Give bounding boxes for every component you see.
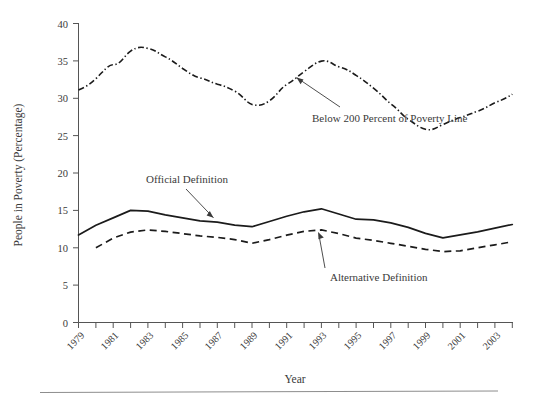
x-axis-ticks xyxy=(79,323,513,329)
annotation-official-definition: Official Definition xyxy=(146,173,228,218)
x-axis-tick-labels: 1979 1981 1983 1985 1987 1989 1991 1993 … xyxy=(64,330,502,352)
y-tick-label: 40 xyxy=(58,19,69,30)
y-tick-label: 30 xyxy=(58,93,69,104)
x-tick-label: 1999 xyxy=(410,330,432,352)
y-tick-label: 35 xyxy=(58,56,69,67)
chart-canvas: 40 35 30 25 20 15 10 5 0 xyxy=(0,0,534,405)
x-tick-label: 1993 xyxy=(306,330,328,352)
annotation-alternative-definition: Alternative Definition xyxy=(318,233,428,284)
y-tick-label: 20 xyxy=(58,168,69,179)
annotation-label: Below 200 Percent of Poverty Line xyxy=(312,112,468,124)
poverty-trend-figure: 40 35 30 25 20 15 10 5 0 xyxy=(0,0,534,405)
annotation-label: Official Definition xyxy=(146,173,228,185)
series-official-definition xyxy=(79,209,513,238)
y-axis-title: People in Poverty (Percentage) xyxy=(12,103,25,246)
y-tick-label: 10 xyxy=(58,243,69,254)
x-tick-label: 1979 xyxy=(64,330,86,352)
y-tick-label: 15 xyxy=(58,205,69,216)
y-axis: 40 35 30 25 20 15 10 5 0 xyxy=(58,19,79,329)
y-tick-label: 25 xyxy=(58,131,69,142)
x-tick-label: 1983 xyxy=(133,330,155,352)
x-tick-label: 1987 xyxy=(202,330,224,352)
x-tick-label: 1997 xyxy=(376,330,398,352)
annotation-label: Alternative Definition xyxy=(330,271,428,283)
x-tick-label: 1989 xyxy=(237,330,259,352)
x-tick-label: 1981 xyxy=(98,330,120,352)
x-tick-label: 1995 xyxy=(341,330,363,352)
y-axis-ticks xyxy=(73,24,79,323)
bottom-divider xyxy=(40,391,498,393)
x-tick-label: 1991 xyxy=(272,330,294,352)
x-tick-label: 1985 xyxy=(168,330,190,352)
x-tick-label: 2003 xyxy=(480,330,502,352)
x-tick-label: 2001 xyxy=(445,330,467,352)
y-tick-label: 0 xyxy=(63,318,68,329)
y-tick-label: 5 xyxy=(63,280,68,291)
x-axis-title: Year xyxy=(284,373,305,385)
annotation-below-200-percent: Below 200 Percent of Poverty Line xyxy=(297,78,468,125)
series-alternative-definition xyxy=(96,230,512,252)
y-axis-tick-labels: 40 35 30 25 20 15 10 5 0 xyxy=(58,19,69,329)
x-axis: 1979 1981 1983 1985 1987 1989 1991 1993 … xyxy=(64,323,513,352)
